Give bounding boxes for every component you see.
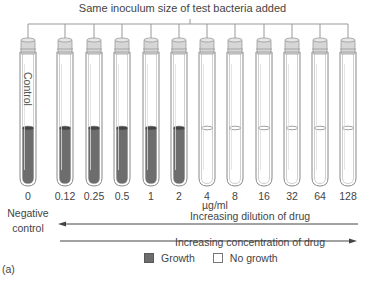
test-tube — [86, 38, 102, 186]
negative-label-line1: Negative — [0, 207, 58, 219]
legend-growth-label: Growth — [161, 252, 195, 264]
test-tube — [340, 38, 356, 186]
test-tube: Control — [20, 38, 36, 186]
concentration-label: 128 — [328, 190, 365, 202]
test-tube — [312, 38, 328, 186]
dilution-arrow — [58, 222, 358, 227]
negative-control-label: Negative control — [0, 207, 58, 234]
no-growth-swatch-icon — [213, 253, 223, 263]
concentration-arrow-label: Increasing concentration of drug — [140, 236, 360, 248]
growth-swatch-icon — [144, 253, 154, 263]
test-tube — [171, 38, 187, 186]
test-tube — [256, 38, 272, 186]
control-tube-text: Control — [22, 72, 34, 106]
legend-no-growth-label: No growth — [230, 252, 278, 264]
test-tube — [57, 38, 73, 186]
test-tube — [114, 38, 130, 186]
negative-label-line2: control — [0, 222, 58, 234]
test-tube — [284, 38, 300, 186]
legend-no-growth: No growth — [213, 252, 278, 264]
test-tube — [227, 38, 243, 186]
legend-growth: Growth — [144, 252, 195, 264]
figure-label: (a) — [2, 263, 15, 275]
dilution-arrow-label: Increasing dilution of drug — [140, 210, 360, 222]
test-tube — [143, 38, 159, 186]
concentration-label: 0 — [8, 190, 48, 202]
legend: Growth No growth — [144, 252, 296, 264]
test-tube — [199, 38, 215, 186]
